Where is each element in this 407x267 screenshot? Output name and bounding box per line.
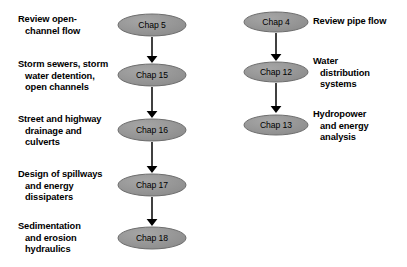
- arrow-head-icon: [147, 56, 158, 63]
- arrow-connector: [271, 33, 282, 61]
- node-label-chap-13: Chap 13: [260, 121, 292, 130]
- node-label-chap-15: Chap 15: [136, 71, 168, 80]
- description-line: hydraulics: [18, 244, 81, 256]
- description-chap-4: Review pipe flow: [313, 16, 386, 28]
- description-line: Review pipe flow: [313, 16, 386, 28]
- description-line: systems: [313, 79, 370, 91]
- description-line: Design of spillways: [18, 169, 102, 181]
- description-chap-15: Storm sewers, stormwater detention,open …: [18, 59, 108, 94]
- description-line: drainage and: [18, 126, 101, 138]
- arrow-connector: [147, 197, 158, 226]
- description-line: and erosion: [18, 233, 81, 245]
- description-line: open channels: [18, 82, 108, 94]
- arrow-head-icon: [147, 111, 158, 118]
- node-label-chap-5: Chap 5: [138, 21, 165, 30]
- description-line: Sedimentation: [18, 221, 81, 233]
- node-label-chap-12: Chap 12: [260, 68, 292, 77]
- arrow-connector: [147, 142, 158, 173]
- description-line: analysis: [313, 132, 369, 144]
- description-line: Water: [313, 56, 370, 68]
- description-line: culverts: [18, 137, 101, 149]
- arrow-connector: [271, 83, 282, 113]
- description-line: dissipaters: [18, 192, 102, 204]
- arrow-head-icon: [271, 54, 282, 61]
- arrow-head-icon: [147, 219, 158, 226]
- description-chap-17: Design of spillwaysand energydissipaters: [18, 169, 102, 204]
- arrow-head-icon: [271, 106, 282, 113]
- description-chap-13: Hydropowerand energyanalysis: [313, 109, 369, 144]
- description-line: and energy: [313, 121, 369, 133]
- description-chap-12: Waterdistributionsystems: [313, 56, 370, 91]
- description-chap-18: Sedimentationand erosionhydraulics: [18, 221, 81, 256]
- arrow-head-icon: [147, 166, 158, 173]
- description-line: and energy: [18, 181, 102, 193]
- arrow-connector: [147, 37, 158, 63]
- description-line: channel flow: [18, 26, 80, 38]
- description-line: Review open-: [18, 14, 80, 26]
- node-label-chap-17: Chap 17: [136, 181, 168, 190]
- description-line: water detention,: [18, 71, 108, 83]
- node-label-chap-4: Chap 4: [262, 18, 289, 27]
- diagram-canvas: Chap 5Review open-channel flowChap 15Sto…: [0, 0, 407, 267]
- description-line: distribution: [313, 68, 370, 80]
- arrow-connector: [147, 87, 158, 118]
- description-line: Street and highway: [18, 114, 101, 126]
- description-chap-5: Review open-channel flow: [18, 14, 80, 37]
- description-chap-16: Street and highwaydrainage andculverts: [18, 114, 101, 149]
- node-label-chap-18: Chap 18: [136, 234, 168, 243]
- node-label-chap-16: Chap 16: [136, 126, 168, 135]
- description-line: Hydropower: [313, 109, 369, 121]
- description-line: Storm sewers, storm: [18, 59, 108, 71]
